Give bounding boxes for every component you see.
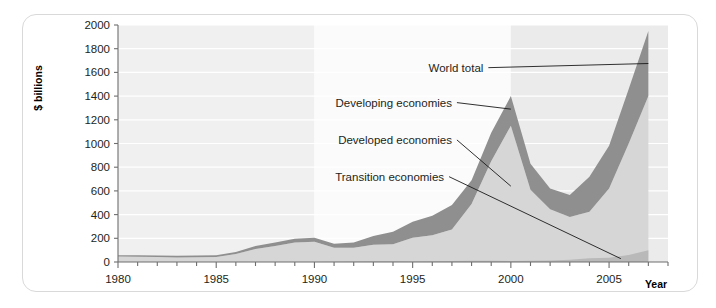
x-tick-label: 1980 [105,273,131,285]
y-tick-label: 800 [91,161,110,173]
x-tick-label: 2000 [498,273,524,285]
y-tick-label: 1000 [84,138,110,150]
x-axis-ticks: 198019851990199520002005 [105,262,668,285]
y-tick-label: 1600 [84,66,110,78]
y-axis-title: $ billions [32,65,44,111]
x-tick-label: 2005 [596,273,622,285]
y-tick-label: 1400 [84,90,110,102]
x-tick-label: 1990 [302,273,328,285]
area-chart: 0200400600800100012001400160018002000 19… [0,0,716,308]
x-tick-label: 1995 [400,273,426,285]
chart-page: 0200400600800100012001400160018002000 19… [0,0,716,308]
x-axis-title: Year [645,278,667,290]
y-axis-ticks: 0200400600800100012001400160018002000 [84,19,118,268]
y-tick-label: 600 [91,185,110,197]
y-tick-label: 400 [91,209,110,221]
x-tick-label: 1985 [203,273,229,285]
annotation-label-2: Developed economies [338,134,452,146]
y-tick-label: 2000 [84,19,110,31]
y-tick-label: 1800 [84,43,110,55]
y-tick-label: 200 [91,232,110,244]
annotation-label-1: Developing economies [336,97,453,109]
annotation-label-3: Transition economies [335,171,444,183]
y-tick-label: 0 [104,256,110,268]
y-tick-label: 1200 [84,114,110,126]
annotation-label-0: World total [429,62,484,74]
